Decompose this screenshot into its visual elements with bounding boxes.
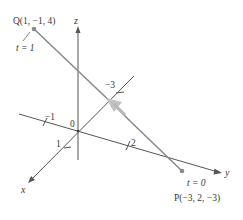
x-tick-1-label: 1 [56,139,61,149]
point-Q [32,27,37,32]
line-segment-QP [32,27,185,174]
x-axis [28,76,134,183]
origin-label: 0 [70,119,75,129]
t1-pointer [23,32,30,41]
y-tick-2-label: 2 [131,138,136,148]
y-axis-arrowhead-icon [214,169,223,175]
z-axis-arrowhead-icon [76,26,81,33]
line-segment-3d-diagram: z y x 0 1 −3 −1 2 Q(1, −1, 4) t = 1 t = … [0,0,243,220]
x-tick-neg3 [116,92,124,93]
y-axis-label: y [224,167,230,178]
x-axis-label: x [20,184,26,195]
x-tick-neg3-label: −3 [105,80,115,90]
y-axis [19,114,222,175]
point-P [180,169,185,174]
point-P-param: t = 0 [187,178,206,188]
point-P-label: P(−3, 2, −3) [174,193,220,204]
z-axis-label: z [73,15,78,26]
y-tick-neg1-label: −1 [45,112,55,122]
z-axis [76,26,81,160]
point-Q-param: t = 1 [16,43,35,53]
point-Q-label: Q(1, −1, 4) [13,16,55,27]
origin-point [77,130,80,133]
x-tick-1 [64,147,71,148]
